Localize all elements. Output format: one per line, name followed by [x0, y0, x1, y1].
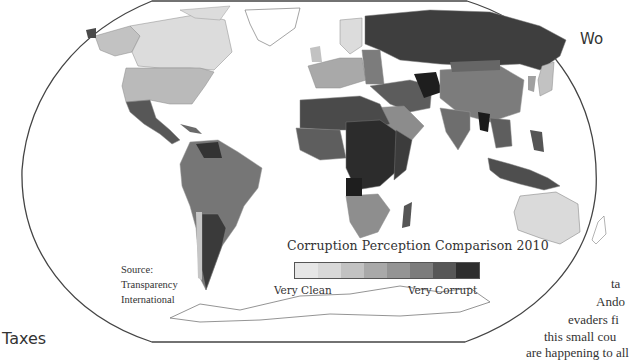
legend-swatch-3 — [341, 263, 364, 278]
legend-swatch-1 — [295, 263, 318, 278]
mongolia — [450, 60, 500, 72]
legend-high-label: Very Corrupt — [408, 284, 477, 296]
source-label: Source: — [121, 262, 178, 277]
body-text-line-4: this small cou — [544, 329, 616, 345]
uk — [310, 46, 322, 62]
legend-swatch-8 — [456, 263, 479, 278]
legend-swatch-2 — [318, 263, 341, 278]
body-text-line-2: Ando — [596, 294, 625, 310]
body-text-line-5: are happening to all — [526, 345, 629, 361]
legend-swatch-6 — [410, 263, 433, 278]
angola — [346, 178, 362, 196]
legend-color-scale — [294, 262, 480, 279]
source-line-2: International — [121, 292, 178, 307]
source-note: Source: Transparency International — [121, 262, 178, 307]
body-text-line-3: evaders fi — [568, 312, 619, 328]
side-heading: Wo — [580, 30, 603, 48]
legend-swatch-5 — [387, 263, 410, 278]
legend-low-label: Very Clean — [274, 284, 332, 296]
source-line-1: Transparency — [121, 277, 178, 292]
legend-swatch-4 — [364, 263, 387, 278]
eastern-europe — [362, 50, 384, 84]
body-text-line-1: ta — [611, 276, 620, 292]
map-title: Corruption Perception Comparison 2010 — [287, 238, 549, 253]
section-heading-taxes: Taxes — [2, 329, 46, 348]
legend-swatch-7 — [433, 263, 456, 278]
